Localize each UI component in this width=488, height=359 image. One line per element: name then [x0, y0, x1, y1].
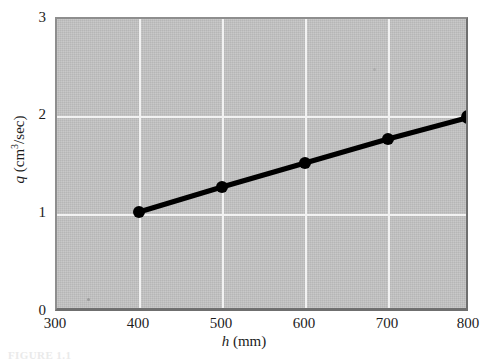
- x-tick-label-800: 800: [438, 316, 488, 331]
- x-tick-label-400: 400: [108, 316, 168, 331]
- y-axis-title-symbol: q: [11, 176, 27, 184]
- x-axis-title: h (mm): [0, 333, 488, 350]
- data-point-400: [133, 206, 145, 218]
- x-tick-label-500: 500: [191, 316, 251, 331]
- y-axis-title-unit-post: /sec): [11, 116, 27, 144]
- data-series-line: [57, 19, 468, 311]
- y-axis-title: q (cm3/sec): [9, 60, 28, 240]
- plot-area: [55, 17, 468, 311]
- figure-container: 3 2 1 0 300 400 500 600 700 800 h (mm) q…: [0, 0, 488, 359]
- figure-caption: FIGURE 1.1: [8, 349, 71, 359]
- y-axis-title-unit-pre: (cm: [11, 149, 27, 176]
- x-tick-label-300: 300: [25, 316, 85, 331]
- x-tick-label-600: 600: [274, 316, 334, 331]
- data-point-800: [461, 110, 468, 124]
- y-axis-title-unit-superscript: 3: [9, 144, 20, 149]
- data-point-600: [299, 157, 311, 169]
- data-point-500: [216, 181, 228, 193]
- x-tick-label-700: 700: [357, 316, 417, 331]
- y-tick-label-3: 3: [6, 10, 46, 25]
- data-point-700: [382, 133, 394, 145]
- x-axis-title-unit: (mm): [229, 333, 266, 349]
